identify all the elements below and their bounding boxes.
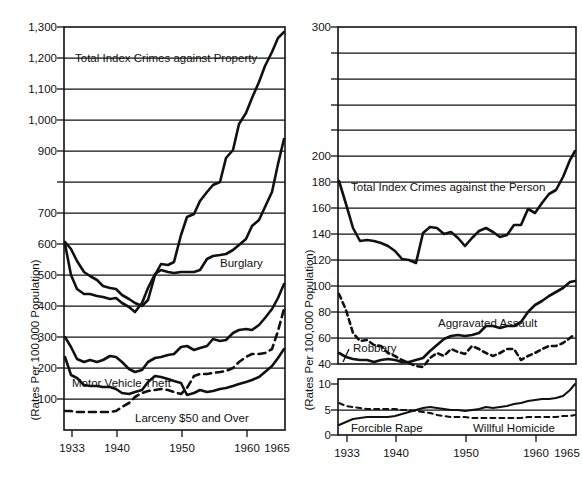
y-tick: 900 (38, 145, 57, 157)
x-tick: 1933 (59, 442, 85, 454)
y-tick: 200 (38, 362, 57, 374)
x-tick: 1933 (334, 447, 360, 459)
y-tick: 100 (312, 280, 331, 292)
left-x-tick-labels: 1933 1940 1950 1960 1965 (59, 442, 290, 454)
left-y-tickmarks (57, 27, 64, 399)
label-forcible-rape: Forcible Rape (351, 422, 423, 434)
x-tick: 1940 (104, 442, 130, 454)
y-tick: 40 (318, 358, 331, 370)
y-tick: 600 (38, 238, 57, 250)
left-chart-svg: (Rates Per 100,000 Population) 1,300 1,2… (0, 0, 291, 495)
right-x-tickmarks (347, 435, 536, 442)
right-y-axis-title: (Rates Per 100,000 Population) (303, 249, 315, 410)
y-tick: 1,300 (28, 21, 57, 33)
right-chart-panel: (Rates Per 100,000 Population) 300 200 1… (291, 0, 582, 495)
label-larceny: Larceny $50 and Over (135, 412, 249, 424)
y-tick: 500 (38, 269, 57, 281)
x-tick: 1960 (234, 442, 260, 454)
y-tick: 80 (318, 306, 331, 318)
x-tick: 1965 (554, 447, 580, 459)
label-burglary: Burglary (220, 257, 263, 269)
right-plot-frame-upper (338, 27, 576, 364)
y-tick: 0 (325, 429, 331, 441)
y-tick: 400 (38, 300, 57, 312)
y-tick: 160 (312, 202, 331, 214)
label-robbery: Robbery (353, 342, 397, 354)
curve-burglary (65, 139, 284, 312)
label-willful-homicide: Willful Homicide (473, 422, 555, 434)
y-tick: 60 (318, 332, 331, 344)
label-motor-vehicle-theft: Motor Vehicle Theft (72, 377, 172, 389)
y-tick: 300 (38, 331, 57, 343)
left-x-tickmarks (72, 430, 247, 437)
figure-root: (Rates Per 100,000 Population) 1,300 1,2… (0, 0, 582, 495)
y-tick: 120 (312, 254, 331, 266)
curve-forcible-rape (339, 384, 575, 425)
right-gridlines-upper (338, 53, 576, 338)
x-tick: 1950 (169, 442, 195, 454)
x-tick: 1960 (523, 447, 549, 459)
y-tick: 140 (312, 228, 331, 240)
y-tick: 300 (312, 21, 331, 33)
y-tick: 1,200 (28, 52, 57, 64)
right-x-tick-labels: 1933 1940 1950 1960 1965 (334, 447, 580, 459)
right-chart-svg: (Rates Per 100,000 Population) 300 200 1… (291, 0, 582, 495)
y-tick: 5 (325, 404, 331, 416)
right-y-tickmarks (331, 27, 338, 435)
x-tick: 1965 (264, 442, 290, 454)
x-tick: 1940 (383, 447, 409, 459)
y-tick: 1,000 (28, 114, 57, 126)
right-y-tick-labels-lower: 10 5 0 (318, 378, 331, 441)
y-tick: 100 (38, 393, 57, 405)
curve-robbery (339, 294, 575, 367)
y-tick: 200 (312, 150, 331, 162)
x-tick: 1950 (453, 447, 479, 459)
y-tick: 700 (38, 207, 57, 219)
y-tick: 1,100 (28, 83, 57, 95)
label-total-index-property: Total Index Crimes against Property (75, 52, 257, 64)
y-tick: 10 (318, 378, 331, 390)
label-total-index-person: Total Index Crimes against the Person (351, 181, 545, 193)
left-chart-panel: (Rates Per 100,000 Population) 1,300 1,2… (0, 0, 291, 495)
y-tick: 180 (312, 176, 331, 188)
curve-total-index-person (339, 151, 575, 263)
label-aggravated-assault: Aggravated Assault (438, 317, 538, 329)
